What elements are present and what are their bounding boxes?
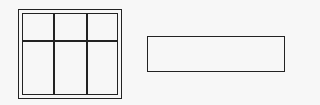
window-inner-frame [22, 13, 118, 95]
grid-divider-horizontal [22, 40, 118, 42]
grid-divider-vertical-1 [53, 13, 55, 95]
grid-divider-vertical-2 [86, 13, 88, 95]
rectangle-shape [147, 36, 285, 72]
